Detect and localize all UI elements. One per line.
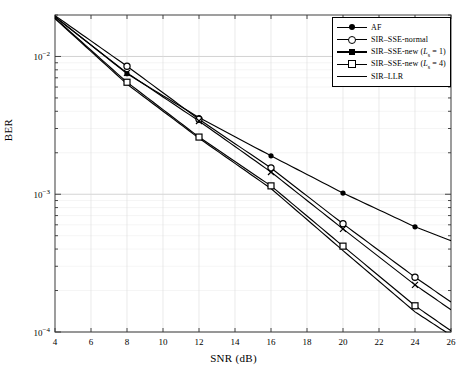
legend-symbol: [337, 46, 367, 58]
legend-label: SIR–SSE-new (Ls = 4): [371, 59, 446, 70]
y-tick-label: 10−2: [12, 50, 50, 62]
legend-label: SIR–SSE-new (Ls = 1): [371, 47, 446, 58]
chart-figure: BER SNR (dB) 10−210−310−4 46810121416182…: [0, 0, 467, 382]
legend-item: SIR–SSE-new (Ls = 1): [337, 46, 445, 58]
x-tick-label: 14: [223, 337, 247, 347]
legend-marker-filled-circle: [349, 24, 355, 30]
x-tick-label: 8: [115, 337, 139, 347]
legend-item: SIR–SSE-normal: [337, 33, 445, 45]
legend-label: AF: [371, 23, 381, 32]
x-tick-label: 6: [79, 337, 103, 347]
legend-symbol: [337, 71, 367, 83]
legend-label: SIR–LLR: [371, 72, 403, 81]
x-axis-label: SNR (dB): [0, 352, 467, 364]
x-tick-label: 16: [259, 337, 283, 347]
x-tick-label: 20: [331, 337, 355, 347]
legend-item: SIR–SSE-new (Ls = 4): [337, 58, 445, 70]
x-tick-label: 22: [367, 337, 391, 347]
x-tick-label: 10: [151, 337, 175, 347]
legend-marker-open-circle: [348, 36, 356, 44]
legend-symbol: [337, 21, 367, 33]
legend-symbol: [337, 58, 367, 70]
legend-item: SIR–LLR: [337, 71, 445, 83]
y-axis-label: BER: [2, 100, 14, 160]
x-tick-label: 26: [439, 337, 463, 347]
legend-marker-x-cross: [349, 49, 355, 55]
legend-item: AF: [337, 21, 445, 33]
x-tick-label: 12: [187, 337, 211, 347]
legend-symbol: [337, 34, 367, 46]
legend-label: SIR–SSE-normal: [371, 35, 428, 44]
legend: AFSIR–SSE-normalSIR–SSE-new (Ls = 1)SIR–…: [332, 17, 451, 87]
x-tick-label: 24: [403, 337, 427, 347]
x-tick-label: 18: [295, 337, 319, 347]
x-tick-label: 4: [43, 337, 67, 347]
legend-marker-open-square: [348, 60, 356, 68]
y-tick-label: 10−3: [12, 188, 50, 200]
